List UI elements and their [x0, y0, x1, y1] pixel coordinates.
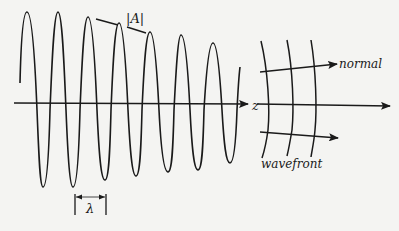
wavefront-curve-3 — [311, 40, 316, 157]
z-axis-label: z — [251, 98, 259, 113]
wavefront-curve-2 — [287, 40, 293, 156]
wavefront-label: wavefront — [261, 157, 322, 171]
propagation-axis — [257, 104, 390, 106]
lower-normal-arrow — [260, 132, 338, 138]
wavefront-curve-1 — [261, 41, 269, 158]
decaying-wave-curve — [20, 12, 240, 187]
normal-arrow — [260, 64, 337, 72]
amplitude-envelope-line — [96, 19, 118, 25]
amplitude-label: |A| — [126, 11, 144, 26]
normal-label: normal — [339, 57, 382, 71]
amplitude-envelope-line-2 — [127, 27, 146, 33]
wavelength-label: λ — [85, 201, 94, 216]
z-axis — [14, 103, 248, 104]
wave-diagram: z |A| λ normal wavefront — [0, 0, 399, 231]
